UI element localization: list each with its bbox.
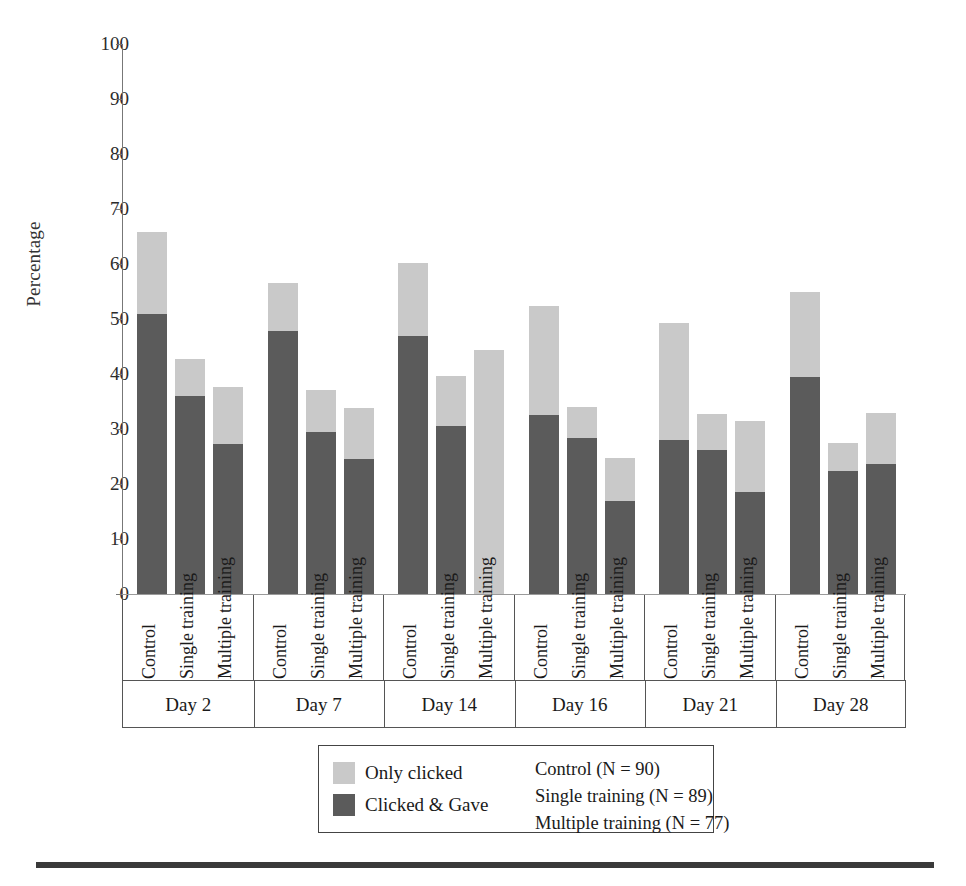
day-group-label: Day 14 <box>384 681 515 728</box>
category-label-line: Multiple <box>347 617 365 679</box>
stacked-bar <box>398 263 428 594</box>
category-label-line: Single <box>831 633 849 679</box>
category-label-line: training <box>738 557 756 613</box>
category-label: Singletraining <box>831 529 849 679</box>
bar-group <box>384 44 515 594</box>
category-label-line: training <box>570 573 588 629</box>
category-band-edge <box>904 595 905 680</box>
bar-segment-only-clicked <box>436 376 466 426</box>
bar-segment-only-clicked <box>659 323 689 440</box>
bar-segment-only-clicked <box>866 413 896 464</box>
category-label-line: Single <box>309 633 327 679</box>
category-label: Singletraining <box>570 529 588 679</box>
bar-group <box>645 44 776 594</box>
stacked-bar <box>137 232 167 594</box>
category-label-line: training <box>309 573 327 629</box>
legend-item-clicked-and-gave: Clicked & Gave <box>333 789 529 821</box>
category-label-line: training <box>347 557 365 613</box>
category-label-line: training <box>869 557 887 613</box>
day-group-label: Day 16 <box>515 681 646 728</box>
day-group-label: Day 7 <box>254 681 385 728</box>
legend-label-only-clicked: Only clicked <box>365 762 463 784</box>
category-label: Multipletraining <box>347 529 365 679</box>
day-group-label: Day 2 <box>123 681 254 728</box>
day-group-separator <box>254 681 255 728</box>
category-label: Control <box>401 549 419 679</box>
category-band-separator <box>383 595 384 680</box>
category-band-separator <box>644 595 645 680</box>
legend-item-only-clicked: Only clicked <box>333 757 529 789</box>
category-label: Multipletraining <box>869 529 887 679</box>
category-label-line: training <box>700 573 718 629</box>
day-group-separator <box>645 681 646 728</box>
plot-area <box>123 44 906 594</box>
category-label-line: Multiple <box>738 617 756 679</box>
bar-segment-only-clicked <box>344 408 374 459</box>
category-label: Control <box>532 549 550 679</box>
bar-segment-only-clicked <box>268 283 298 331</box>
legend-n-single-training: Single training (N = 89) <box>535 783 711 810</box>
category-label-line: training <box>216 557 234 613</box>
bar-segment-only-clicked <box>137 232 167 314</box>
day-group-band: Day 2Day 7Day 14Day 16Day 21Day 28 <box>122 680 906 728</box>
category-label: Singletraining <box>700 529 718 679</box>
bar-segment-only-clicked <box>213 387 243 444</box>
category-band-separator <box>775 595 776 680</box>
category-label-line: Single <box>570 633 588 679</box>
bar-segment-only-clicked <box>697 414 727 451</box>
day-group-label: Day 21 <box>645 681 776 728</box>
bar-segment-only-clicked <box>790 292 820 377</box>
day-group-separator <box>384 681 385 728</box>
bar-segment-only-clicked <box>828 443 858 471</box>
bottom-rule <box>36 862 934 868</box>
category-label-line: training <box>477 557 495 613</box>
bar-segment-only-clicked <box>175 359 205 396</box>
category-label: Singletraining <box>178 529 196 679</box>
category-label: Singletraining <box>309 529 327 679</box>
category-label: Control <box>271 549 289 679</box>
stacked-bar <box>268 283 298 594</box>
legend-n-control: Control (N = 90) <box>535 756 711 783</box>
category-band-separator <box>253 595 254 680</box>
category-label-line: Single <box>439 633 457 679</box>
category-band-edge <box>122 595 123 680</box>
category-label-line: Multiple <box>869 617 887 679</box>
category-label-line: Single <box>700 633 718 679</box>
bar-group <box>254 44 385 594</box>
category-label-line: Multiple <box>477 617 495 679</box>
bar-group <box>123 44 254 594</box>
category-label-line: training <box>439 573 457 629</box>
category-band-separator <box>514 595 515 680</box>
bar-segment-only-clicked <box>605 458 635 501</box>
category-label: Control <box>662 549 680 679</box>
bar-segment-only-clicked <box>567 407 597 438</box>
category-label: Multipletraining <box>738 529 756 679</box>
category-label: Multipletraining <box>608 529 626 679</box>
category-label: Control <box>140 549 158 679</box>
legend-label-clicked-and-gave: Clicked & Gave <box>365 794 488 816</box>
category-label-line: training <box>178 573 196 629</box>
bar-segment-only-clicked <box>398 263 428 336</box>
bar-segment-only-clicked <box>306 390 336 432</box>
category-label-line: Multiple <box>216 617 234 679</box>
legend-sample-sizes: Control (N = 90) Single training (N = 89… <box>535 756 711 838</box>
category-label-line: Single <box>178 633 196 679</box>
bar-group <box>515 44 646 594</box>
legend-swatch-clicked-and-gave <box>333 794 355 816</box>
bar-segment-only-clicked <box>735 421 765 492</box>
category-label: Multipletraining <box>216 529 234 679</box>
legend-swatch-only-clicked <box>333 762 355 784</box>
bar-group <box>776 44 907 594</box>
category-label: Control <box>793 549 811 679</box>
legend-series-list: Only clicked Clicked & Gave <box>333 757 529 821</box>
day-group-label: Day 28 <box>776 681 907 728</box>
category-label-line: training <box>831 573 849 629</box>
y-axis-tick-labels: 0102030405060708090100 <box>55 0 129 886</box>
category-label-line: training <box>608 557 626 613</box>
bar-segment-only-clicked <box>529 306 559 415</box>
category-label: Singletraining <box>439 529 457 679</box>
day-group-separator <box>776 681 777 728</box>
category-label-line: Multiple <box>608 617 626 679</box>
legend: Only clicked Clicked & Gave Control (N =… <box>318 745 714 833</box>
legend-n-multiple-training: Multiple training (N = 77) <box>535 810 711 837</box>
